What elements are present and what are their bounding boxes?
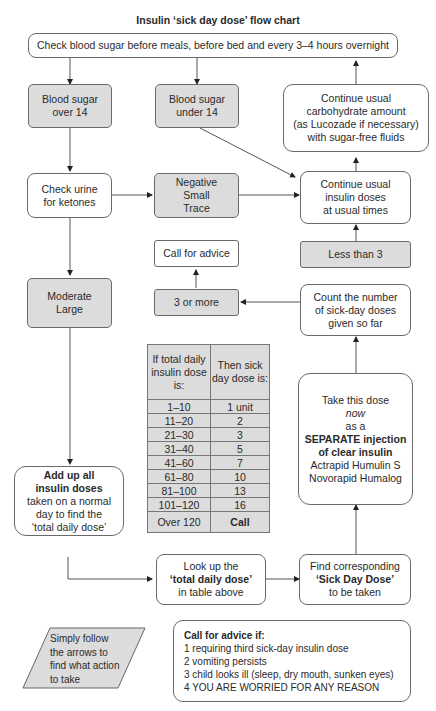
advice-item: 3 child looks ill (sleep, dry mouth, sun… [184,668,400,681]
label: insulin doses [27,482,111,495]
legend-parallelogram: Simply follow the arrows to find what ac… [22,627,146,689]
label: Negative [176,176,217,189]
table-cell: 41–60 [148,456,211,470]
find-sick-day-dose-box: Find corresponding ‘Sick Day Dose’ to be… [299,554,411,605]
label: (as Lucozade if necessary) [293,118,418,131]
label: Moderate [47,290,91,303]
table-cell: Over 120 [148,512,211,533]
advice-list: 1 requiring third sick-day insulin dose … [184,642,400,694]
label: Count the number [313,291,397,304]
label: Check urine [41,183,97,196]
table-row: 11–202 [148,414,270,428]
add-up-insulin-box: Add up all insulin doses taken on a norm… [14,466,124,536]
label: Novorapid Humalog [305,472,407,485]
label: of clear insulin [305,446,407,459]
label: Look up the [170,560,252,573]
blood-sugar-over-14-box: Blood sugarover 14 [28,84,112,128]
check-urine-ketones-box: Check urinefor ketones [27,173,112,218]
table-cell: 1 unit [211,400,270,414]
table-row: 81–10013 [148,484,270,498]
table-cell: 16 [211,498,270,512]
label: day to find the [27,508,111,521]
take-dose-box: Take this dose now as a SEPARATE injecti… [298,373,413,505]
label: to be taken [310,586,400,599]
table-cell: 31–40 [148,442,211,456]
table-cell: 11–20 [148,414,211,428]
label: under 14 [169,106,225,119]
label: ‘Sick Day Dose’ [310,573,400,586]
label: taken on a normal [27,495,111,508]
table-cell: 101–120 [148,498,211,512]
label: carbohydrate amount [293,105,418,118]
label: ‘total daily dose’ [27,521,111,534]
table-header-cell: If total daily insulin dose is: [148,345,211,400]
table-cell: 10 [211,470,270,484]
table-cell: Call [211,512,270,533]
table-row: Over 120Call [148,512,270,533]
table-cell: 21–30 [148,428,211,442]
label: SEPARATE injection [305,433,407,446]
blood-sugar-under-14-box: Blood sugarunder 14 [155,84,239,128]
label: Continue usual [320,178,390,191]
label: Large [47,303,91,316]
continue-insulin-doses-box: Continue usualinsulin dosesat usual time… [300,171,411,224]
count-sick-day-doses-box: Count the numberof sick-day dosesgiven s… [300,284,411,336]
table-row: 41–607 [148,456,270,470]
three-or-more-box: 3 or more [154,289,239,316]
table-cell: 3 [211,428,270,442]
continue-carbohydrate-box: Continue usualcarbohydrate amount(as Luc… [283,84,429,152]
label: Trace [176,202,217,215]
label: Add up all [27,469,111,482]
label: as a [305,420,407,433]
advice-item: 2 vomiting persists [184,655,400,668]
label: at usual times [320,204,390,217]
call-for-advice-panel: Call for advice if: 1 requiring third si… [173,620,411,702]
table-cell: 7 [211,456,270,470]
table-cell: 81–100 [148,484,211,498]
legend-text: Simply follow the arrows to find what ac… [50,632,120,686]
label: with sugar-free fluids [293,131,418,144]
label: of sick-day doses [313,304,397,317]
table-cell: 2 [211,414,270,428]
moderate-large-box: ModerateLarge [27,278,112,328]
look-up-total-daily-dose-box: Look up the ‘total daily dose’ in table … [156,554,266,605]
label: Take this dose [305,394,407,407]
table-header-cell: Then sick day dose is: [211,345,270,400]
check-blood-sugar-text: Check blood sugar before meals, before b… [37,39,389,52]
table-header-row: If total daily insulin dose is: Then sic… [148,345,270,400]
label: for ketones [41,196,97,209]
table-cell: 5 [211,442,270,456]
advice-item: 4 YOU ARE WORRIED FOR ANY REASON [184,681,400,694]
call-for-advice-box: Call for advice [154,240,239,267]
label: in table above [170,586,252,599]
check-blood-sugar-box: Check blood sugar before meals, before b… [28,33,398,58]
table-cell: 61–80 [148,470,211,484]
label: Small [176,189,217,202]
table-row: 31–405 [148,442,270,456]
dose-lookup-table: If total daily insulin dose is: Then sic… [147,344,270,533]
less-than-3-box: Less than 3 [300,241,411,268]
label: Blood sugar [42,93,98,106]
label: Call for advice [163,247,230,260]
table-row: 1–101 unit [148,400,270,414]
label: now [305,407,407,420]
label: Continue usual [293,92,418,105]
label: Blood sugar [169,93,225,106]
table-row: 61–8010 [148,470,270,484]
label: Less than 3 [328,248,382,261]
label: Actrapid Humulin S [305,459,407,472]
table-row: 101–12016 [148,498,270,512]
negative-small-trace-box: NegativeSmallTrace [154,173,239,218]
label: over 14 [42,106,98,119]
advice-item: 1 requiring third sick-day insulin dose [184,642,400,655]
table-cell: 1–10 [148,400,211,414]
label: given so far [313,317,397,330]
label: Find corresponding [310,560,400,573]
label: insulin doses [320,191,390,204]
label: ‘total daily dose’ [170,573,252,586]
label: 3 or more [174,296,219,309]
table-cell: 13 [211,484,270,498]
table-row: 21–303 [148,428,270,442]
advice-heading: Call for advice if: [184,629,400,642]
